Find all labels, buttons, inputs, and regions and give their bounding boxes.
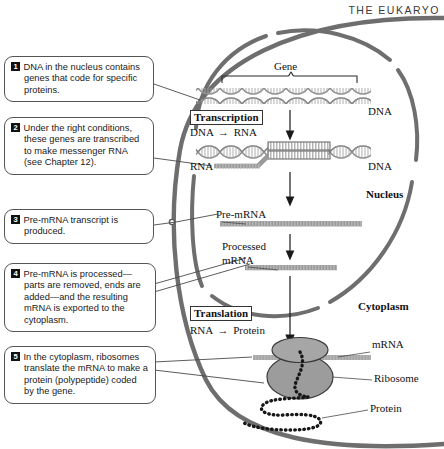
flow-arrow-3 <box>287 234 294 259</box>
callout-3-body: Pre-mRNA transcript is produced. <box>24 215 119 236</box>
ribosome-label: Ribosome <box>374 372 419 384</box>
callout-step-3[interactable]: 3Pre-mRNA transcript is produced. <box>4 209 154 244</box>
callout-step-2[interactable]: 2Under the right conditions, these genes… <box>4 117 154 175</box>
ribosome-shape <box>267 338 333 400</box>
callout-4-number: 4 <box>11 269 20 278</box>
callout-2-text: 2Under the right conditions, these genes… <box>11 123 147 169</box>
callout-1-number: 1 <box>11 62 20 71</box>
callout-3-number: 3 <box>11 215 20 224</box>
callout-step-5[interactable]: 5In the cytoplasm, ribosomes translate t… <box>4 346 156 404</box>
callout-5-text: 5In the cytoplasm, ribosomes translate t… <box>11 352 149 398</box>
flow-arrow-4 <box>286 276 294 344</box>
callout-step-1[interactable]: 1DNA in the nucleus contains genes that … <box>4 56 154 102</box>
nucleus-label: Nucleus <box>366 188 403 200</box>
processed-mrna-label-line1: Processed <box>222 240 266 252</box>
processed-mrna-strand <box>245 265 337 270</box>
translation-reactant: RNA <box>190 324 213 336</box>
transcription-equation: DNA → RNA <box>190 126 257 138</box>
translation-process-box: Translation <box>190 306 252 321</box>
rna-label: RNA <box>190 160 213 172</box>
cytoplasm-label: Cytoplasm <box>358 300 409 312</box>
pre-mrna-label: Pre-mRNA <box>216 208 266 220</box>
gene-label: Gene <box>274 60 297 72</box>
transcription-product: RNA <box>234 126 257 138</box>
callout-2-body: Under the right conditions, these genes … <box>24 123 140 167</box>
running-head: THE EUKARYO <box>348 4 440 16</box>
callout-4-body: Pre-mRNA is processed—parts are removed,… <box>24 269 141 325</box>
figure-canvas: THE EUKARYO 1DNA in the nucleus contains… <box>0 0 444 449</box>
callout-step-4[interactable]: 4Pre-mRNA is processed—parts are removed… <box>4 263 156 332</box>
dna-label-top: DNA <box>368 105 392 117</box>
callout-2-number: 2 <box>11 123 20 132</box>
callout-3-text: 3Pre-mRNA transcript is produced. <box>11 215 147 238</box>
callout-5-number: 5 <box>11 352 20 361</box>
transcription-arrow-icon: → <box>216 126 231 138</box>
processed-mrna-label-line2: mRNA <box>222 254 254 266</box>
mrna-label: mRNA <box>372 338 404 350</box>
nuclear-envelope <box>169 30 417 316</box>
protein-label: Protein <box>370 402 402 414</box>
callout-1-body: DNA in the nucleus contains genes that c… <box>24 62 140 95</box>
flow-arrow-1 <box>287 110 294 139</box>
translation-arrow-icon: → <box>215 324 230 336</box>
callout-1-text: 1DNA in the nucleus contains genes that … <box>11 62 147 96</box>
callout-5-body: In the cytoplasm, ribosomes translate th… <box>24 352 149 396</box>
flow-arrow-2 <box>287 172 294 205</box>
translation-product: Protein <box>233 324 265 336</box>
dna-strand-top <box>196 88 371 104</box>
gene-bracket <box>222 72 357 83</box>
translation-equation: RNA → Protein <box>190 324 265 336</box>
dna-transcription-bubble <box>196 142 371 169</box>
transcription-process-box: Transcription <box>190 110 263 125</box>
transcription-reactant: DNA <box>190 126 213 138</box>
callout-4-text: 4Pre-mRNA is processed—parts are removed… <box>11 269 149 326</box>
dna-label-bottom: DNA <box>368 160 392 172</box>
